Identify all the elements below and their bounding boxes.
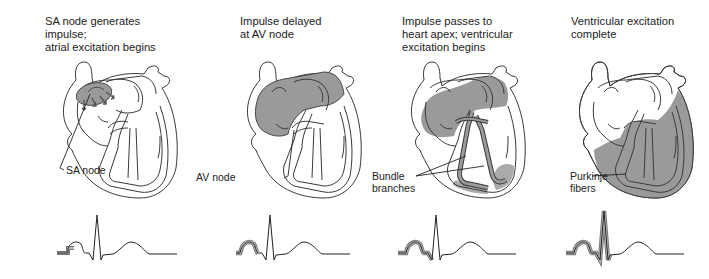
- panel-title: SA node generates impulse; atrial excita…: [45, 15, 180, 54]
- ecg-trace: [228, 208, 353, 263]
- label-purkinje-fibers: Purkinje fibers: [570, 170, 608, 194]
- heart-diagram: [232, 58, 367, 203]
- label-av-node: AV node: [196, 171, 236, 183]
- panel-purkinje: Ventricular excitation complete: [540, 0, 709, 279]
- panel-title: Ventricular excitation complete: [571, 15, 674, 41]
- panel-bundle-branches: Impulse passes to heart apex; ventricula…: [360, 0, 540, 279]
- ecg-trace: [55, 208, 180, 263]
- panel-sa-node: SA node generates impulse; atrial excita…: [0, 0, 180, 279]
- panel-title: Impulse delayed at AV node: [240, 15, 321, 41]
- ecg-trace: [564, 208, 689, 263]
- panel-title: Impulse passes to heart apex; ventricula…: [402, 15, 513, 54]
- label-sa-node: SA node: [66, 164, 106, 176]
- ecg-trace: [396, 208, 521, 263]
- panel-av-node: Impulse delayed at AV node AV no: [180, 0, 360, 279]
- heart-diagram: [48, 58, 183, 203]
- label-bundle-branches: Bundle branches: [372, 170, 415, 194]
- heart-diagram: [396, 58, 531, 203]
